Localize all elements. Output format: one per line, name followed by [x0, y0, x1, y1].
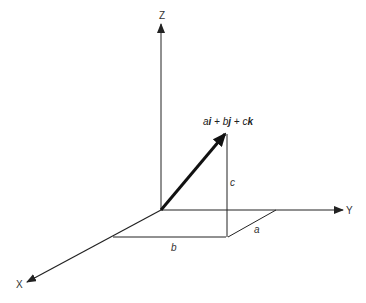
vector-label-render: ai + bj + ck — [203, 117, 253, 127]
a-label: a — [254, 225, 260, 235]
a-component-line — [228, 210, 276, 237]
x-axis-label: X — [16, 280, 23, 290]
vector-arrow — [161, 134, 225, 210]
c-label: c — [230, 178, 235, 188]
x-axis — [27, 210, 161, 282]
vector-diagram — [0, 0, 366, 303]
y-axis-label: Y — [346, 206, 353, 216]
b-label: b — [171, 243, 177, 253]
z-axis-label: Z — [159, 11, 165, 21]
